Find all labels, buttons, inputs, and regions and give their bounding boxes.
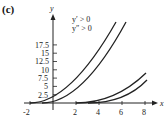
condition-first-derivative: y′ > 0 bbox=[72, 15, 90, 24]
x-tick-label: 6 bbox=[119, 108, 123, 117]
y-axis-arrow-icon bbox=[51, 14, 56, 20]
y-tick-label: 10 bbox=[41, 66, 49, 75]
curve-2 bbox=[42, 22, 126, 103]
y-tick-label: 17.5 bbox=[35, 41, 49, 50]
y-axis-label: y bbox=[49, 4, 54, 13]
x-tick-label: 4 bbox=[96, 108, 100, 117]
curve-3 bbox=[76, 73, 146, 103]
curve-4 bbox=[88, 80, 147, 103]
condition-second-derivative: y″ > 0 bbox=[72, 24, 92, 33]
x-tick-label: 8 bbox=[142, 108, 146, 117]
x-axis-label: x bbox=[159, 99, 164, 108]
x-axis-arrow-icon bbox=[152, 101, 158, 106]
y-ticks: 2.5 5 7.5 10 12.5 15 17.5 bbox=[35, 41, 57, 100]
x-tick-label: -2 bbox=[23, 108, 30, 117]
y-tick-label: 12.5 bbox=[35, 57, 49, 66]
chart-svg: x y -2 2 4 6 8 2.5 5 7.5 10 12.5 15 17.5… bbox=[0, 0, 166, 120]
y-tick-label: 15 bbox=[41, 49, 49, 58]
y-tick-label: 7.5 bbox=[38, 74, 48, 83]
y-tick-label: 2.5 bbox=[38, 91, 48, 100]
y-tick-label: 5 bbox=[44, 82, 48, 91]
x-tick-label: 2 bbox=[73, 108, 77, 117]
